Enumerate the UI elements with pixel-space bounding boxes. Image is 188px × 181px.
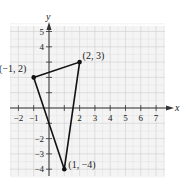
vertex-point [77,60,82,65]
y-tick-label: −2 [34,134,44,144]
y-tick-label: −3 [34,149,44,159]
x-tick-label: 6 [139,113,144,123]
x-tick-label: 7 [154,113,159,123]
coordinate-plane: −2−123456754−2−3−4 (−1, 2)(2, 3)(1, −4) … [0,0,188,181]
y-tick-label: 4 [40,42,45,52]
x-axis-label: x [174,102,180,113]
x-tick-label: −1 [29,113,39,123]
vertex-label: (−1, 2) [0,63,26,75]
x-tick-label: 5 [123,113,128,123]
vertex-label: (1, −4) [68,159,95,171]
x-tick-label: −2 [14,113,24,123]
y-tick-label: −4 [34,164,44,174]
y-axis-label: y [45,11,51,22]
x-tick-label: 4 [108,113,113,123]
x-tick-label: 3 [93,113,98,123]
x-tick-label: 2 [77,113,82,123]
vertex-point [62,167,67,172]
x-axis-arrow-icon [166,106,174,111]
y-tick-label: 5 [40,27,45,37]
grid-lines [10,24,165,177]
vertex-point [31,75,36,80]
vertex-label: (2, 3) [83,50,105,62]
